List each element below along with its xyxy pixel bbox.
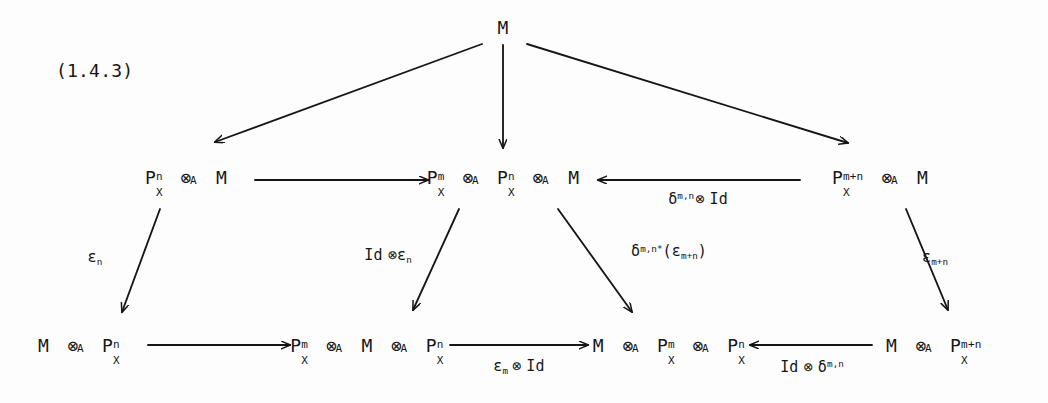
arrow-midcenter-to-botcl [413, 209, 459, 310]
node-top-m: M [497, 19, 508, 37]
node-bottom-right: M ⊗A Pm+nX [886, 337, 988, 355]
arrow-midleft-to-botleft [122, 209, 160, 312]
symbol-p-x-n: PnX [102, 337, 113, 355]
tensor-over-a: ⊗A [622, 337, 634, 355]
symbol-p-x-m: PmX [290, 337, 301, 355]
tensor-over-a: ⊗A [915, 337, 927, 355]
edge-label-delta-mn-tensor-id: δm,n⊗Id [668, 191, 728, 207]
node-mid-center: PmX ⊗A PnX ⊗A M [427, 169, 579, 187]
symbol-p-x-n: PnX [426, 337, 437, 355]
tensor-over-a: ⊗A [462, 169, 474, 187]
symbol-p-x-m: PmX [657, 337, 668, 355]
arrow-m-to-midright [527, 44, 848, 143]
symbol-p-x-n: PnX [497, 169, 508, 187]
edge-label-id-tensor-delta-mn: Id⊗δm,n [780, 359, 844, 375]
symbol-p-x-n: PnX [145, 169, 156, 187]
tensor-over-a: ⊗A [391, 337, 403, 355]
edge-label-epsilon-m-tensor-id: εm⊗Id [493, 359, 545, 375]
arrow-m-to-midleft [215, 44, 482, 142]
symbol-p-x-m: PmX [427, 169, 438, 187]
edge-label-epsilon-m-plus-n: εm+n [922, 250, 948, 266]
symbol-p-x-n: PnX [727, 337, 738, 355]
diagram-page: (1.4.3) M PnX ⊗A M PmX ⊗A PnX ⊗A M Pm+nX… [0, 0, 1048, 403]
edge-label-delta-pullback-epsilon: δm,n*(εm+n) [631, 244, 707, 261]
node-bottom-left: M ⊗A PnX [38, 337, 126, 355]
tensor-over-a: ⊗A [692, 337, 704, 355]
node-mid-right: Pm+nX ⊗A M [832, 169, 928, 187]
tensor-over-a: ⊗A [532, 169, 544, 187]
tensor-over-a: ⊗A [180, 169, 192, 187]
node-mid-left: PnX ⊗A M [145, 169, 227, 187]
tensor-over-a: ⊗A [325, 337, 337, 355]
edge-label-id-tensor-epsilon-n: Id⊗εn [364, 248, 412, 264]
node-bottom-center-right: M ⊗A PmX ⊗A PnX [593, 337, 751, 355]
tensor-over-a: ⊗A [67, 337, 79, 355]
node-top-m-label: M [497, 17, 508, 38]
node-bottom-center-left: PmX ⊗A M ⊗A PnX [290, 337, 449, 355]
tensor-over-a: ⊗A [881, 169, 893, 187]
symbol-p-x-m-plus-n: Pm+nX [950, 337, 961, 355]
arrow-midcenter-to-botcr [558, 209, 632, 312]
symbol-p-x-m-plus-n: Pm+nX [832, 169, 843, 187]
edge-label-epsilon-n: εn [88, 250, 103, 266]
equation-number: (1.4.3) [56, 62, 133, 80]
